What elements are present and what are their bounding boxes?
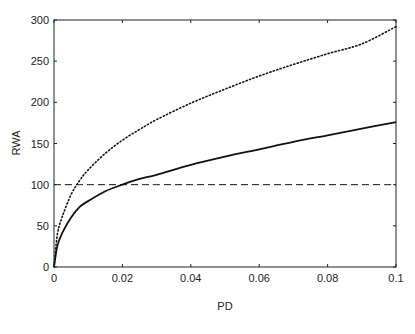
y-axis-label: RWA xyxy=(10,130,22,156)
y-tick-label: 200 xyxy=(31,96,49,108)
x-tick-label: 0 xyxy=(51,272,57,284)
x-tick-label: 0.04 xyxy=(180,272,201,284)
x-tick-label: 0.1 xyxy=(388,272,403,284)
x-tick-label: 0.08 xyxy=(317,272,338,284)
y-tick-label: 250 xyxy=(31,55,49,67)
y-tick-label: 0 xyxy=(43,261,49,273)
y-tick-label: 300 xyxy=(31,14,49,26)
plot-series xyxy=(54,27,396,267)
x-tick-label: 0.06 xyxy=(248,272,269,284)
series-solid-line xyxy=(54,122,396,267)
x-tick-label: 0.02 xyxy=(112,272,133,284)
x-axis: 00.020.040.060.080.1 xyxy=(51,20,404,284)
line-chart: 00.020.040.060.080.1 050100150200250300 … xyxy=(0,0,415,334)
y-tick-label: 150 xyxy=(31,138,49,150)
plot-frame xyxy=(54,20,396,267)
series-dotted-line xyxy=(54,27,396,267)
y-tick-label: 100 xyxy=(31,179,49,191)
y-tick-label: 50 xyxy=(37,220,49,232)
x-axis-label: PD xyxy=(217,300,232,312)
y-axis: 050100150200250300 xyxy=(31,14,396,273)
